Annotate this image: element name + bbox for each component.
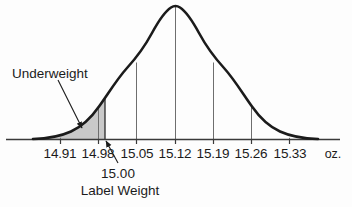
tick-label-14-91: 14.91 xyxy=(44,146,77,161)
underweight-label: Underweight xyxy=(12,66,88,81)
axis-ticks xyxy=(61,140,290,145)
normal-curve-figure: Underweight 14.91 14.98 15.05 15.12 15.1… xyxy=(0,0,352,207)
tick-label-14-98: 14.98 xyxy=(82,146,115,161)
tick-label-15-33: 15.33 xyxy=(274,146,307,161)
tick-label-15-12: 15.12 xyxy=(159,146,192,161)
label-weight-caption: Label Weight xyxy=(81,183,160,198)
underweight-callout-arrow xyxy=(58,80,82,128)
tick-label-15-05: 15.05 xyxy=(121,146,154,161)
distribution-chart xyxy=(0,0,352,207)
axis-unit-label: oz. xyxy=(325,147,342,161)
tick-label-15-26: 15.26 xyxy=(235,146,268,161)
tick-label-15-19: 15.19 xyxy=(197,146,230,161)
label-weight-value: 15.00 xyxy=(101,166,135,181)
